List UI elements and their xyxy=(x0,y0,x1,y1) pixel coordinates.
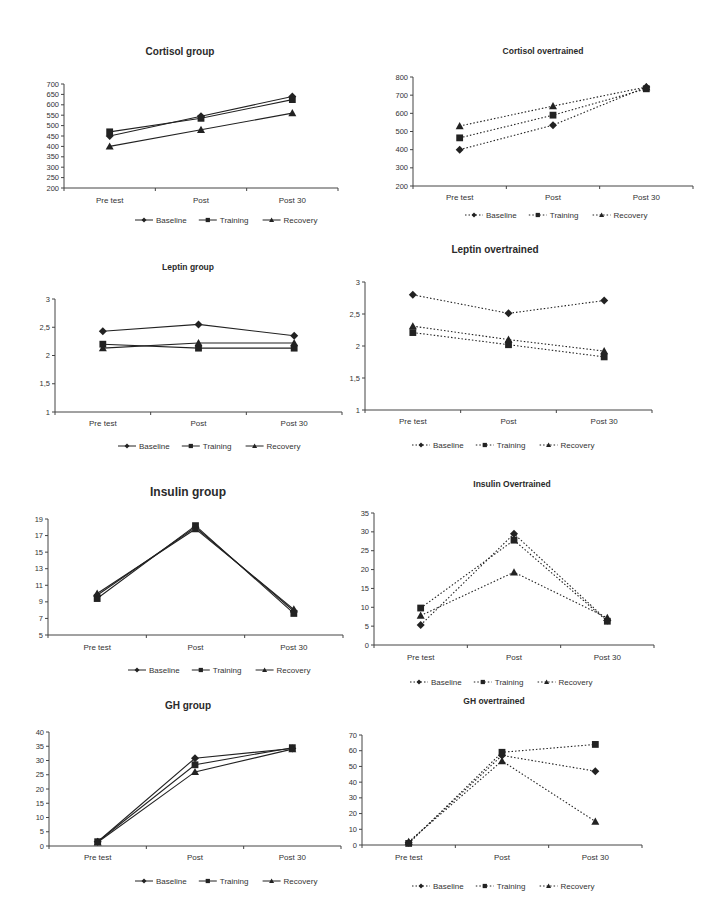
x-category-label: Post xyxy=(506,653,523,662)
legend-baseline-marker-diamond xyxy=(142,218,147,223)
y-tick-label: 15 xyxy=(35,548,43,557)
legend-baseline-marker-diamond xyxy=(125,444,130,449)
legend-label-training: Training xyxy=(220,216,249,225)
y-tick-label: 2 xyxy=(46,351,50,360)
baseline-marker-diamond xyxy=(505,309,513,317)
series-training xyxy=(94,522,297,617)
x-category-label: Pre test xyxy=(446,193,474,202)
x-category-label: Pre test xyxy=(89,419,117,428)
series-recovery xyxy=(405,757,600,845)
chart-cortisol-overtrained: Cortisol overtrained20030040050060070080… xyxy=(395,46,693,220)
baseline-marker-diamond xyxy=(549,121,557,129)
y-tick-label: 1 xyxy=(46,408,50,417)
training-marker-square xyxy=(289,96,296,103)
x-category-label: Pre test xyxy=(83,643,111,652)
legend-training-marker-square xyxy=(206,879,210,883)
legend-label-training: Training xyxy=(497,441,526,450)
y-tick-label: 70 xyxy=(349,731,357,740)
x-category-label: Post xyxy=(545,193,562,202)
y-tick-label: 5 xyxy=(39,631,43,640)
x-category-label: Post 30 xyxy=(279,196,307,205)
y-tick-label: 2,5 xyxy=(40,323,50,332)
legend-training-marker-square xyxy=(483,443,487,447)
x-category-label: Post 30 xyxy=(281,419,309,428)
x-category-label: Post 30 xyxy=(582,853,610,862)
chart-leptin-group: Leptin group11,522,53Pre testPostPost 30… xyxy=(40,262,342,451)
y-tick-label: 200 xyxy=(46,184,59,193)
y-tick-label: 7 xyxy=(39,614,43,623)
y-tick-label: 9 xyxy=(39,597,43,606)
y-tick-label: 0 xyxy=(353,841,357,850)
legend-label-training: Training xyxy=(220,877,249,886)
y-tick-label: 300 xyxy=(46,163,59,172)
baseline-marker-diamond xyxy=(409,291,417,299)
y-tick-label: 450 xyxy=(46,132,59,141)
recovery-marker-triangle xyxy=(288,109,296,116)
legend: BaselineTrainingRecovery xyxy=(118,442,300,451)
legend-label-training: Training xyxy=(495,678,524,687)
chart-title: GH overtrained xyxy=(463,696,524,706)
y-tick-label: 11 xyxy=(35,581,43,590)
x-category-label: Pre test xyxy=(399,417,427,426)
legend-label-recovery: Recovery xyxy=(284,877,318,886)
legend-label-training: Training xyxy=(213,666,242,675)
legend-baseline-marker-diamond xyxy=(142,879,147,884)
y-tick-label: 30 xyxy=(349,793,357,802)
y-tick-label: 13 xyxy=(35,564,43,573)
baseline-marker-diamond xyxy=(456,146,464,154)
y-tick-label: 17 xyxy=(35,531,43,540)
legend: BaselineTrainingRecovery xyxy=(410,678,592,687)
y-tick-label: 50 xyxy=(349,762,357,771)
y-tick-label: 1,5 xyxy=(350,374,360,383)
series-training xyxy=(456,85,649,141)
legend-label-baseline: Baseline xyxy=(486,211,517,220)
legend-baseline-marker-diamond xyxy=(417,680,422,685)
y-tick-label: 15 xyxy=(36,799,44,808)
y-tick-label: 5 xyxy=(40,827,44,836)
legend-label-recovery: Recovery xyxy=(561,882,595,891)
y-tick-label: 15 xyxy=(361,584,369,593)
x-category-label: Post xyxy=(187,643,204,652)
series-baseline xyxy=(93,523,298,615)
legend-label-baseline: Baseline xyxy=(156,877,187,886)
legend: BaselineTrainingRecovery xyxy=(135,877,317,886)
y-tick-label: 60 xyxy=(349,746,357,755)
chart-title: Insulin group xyxy=(150,485,226,499)
baseline-marker-diamond xyxy=(195,320,203,328)
x-category-label: Post xyxy=(494,853,511,862)
recovery-marker-triangle xyxy=(505,336,513,343)
legend-label-recovery: Recovery xyxy=(561,441,595,450)
chart-gh-overtrained: GH overtrained010203040506070Pre testPos… xyxy=(349,696,642,891)
y-tick-label: 300 xyxy=(395,163,408,172)
y-tick-label: 1,5 xyxy=(40,379,50,388)
training-marker-square xyxy=(417,605,424,612)
y-tick-label: 2 xyxy=(356,342,360,351)
y-tick-label: 400 xyxy=(46,142,59,151)
y-tick-label: 35 xyxy=(361,509,369,518)
x-category-label: Pre test xyxy=(84,853,112,862)
charts-canvas: Cortisol group20025030035040045050055060… xyxy=(0,0,709,923)
legend-baseline-marker-diamond xyxy=(419,884,424,889)
y-tick-label: 5 xyxy=(365,622,369,631)
y-tick-label: 20 xyxy=(36,785,44,794)
recovery-marker-triangle xyxy=(456,122,464,129)
y-tick-label: 800 xyxy=(395,73,408,82)
x-category-label: Post 30 xyxy=(279,853,307,862)
legend-training-marker-square xyxy=(536,213,540,217)
recovery-marker-triangle xyxy=(510,568,518,575)
y-tick-label: 10 xyxy=(361,603,369,612)
legend-training-marker-square xyxy=(483,884,487,888)
training-marker-square xyxy=(601,353,608,360)
y-tick-label: 30 xyxy=(36,756,44,765)
chart-title: Leptin overtrained xyxy=(451,244,538,255)
y-tick-label: 400 xyxy=(395,145,408,154)
legend: BaselineTrainingRecovery xyxy=(128,666,310,675)
y-tick-label: 2,5 xyxy=(350,310,360,319)
legend-label-training: Training xyxy=(497,882,526,891)
legend-label-baseline: Baseline xyxy=(139,442,170,451)
legend-label-recovery: Recovery xyxy=(614,211,648,220)
baseline-marker-diamond xyxy=(591,767,599,775)
chart-insulin-group: Insulin group5791113151719Pre testPostPo… xyxy=(35,485,343,675)
hormone-charts-figure: Cortisol group20025030035040045050055060… xyxy=(0,0,709,923)
legend-training-marker-square xyxy=(206,218,210,222)
